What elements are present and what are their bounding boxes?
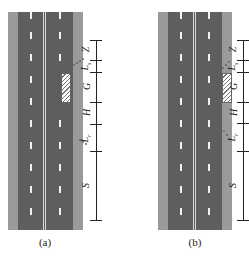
dimension-tick	[90, 60, 102, 61]
lane-dash	[180, 76, 182, 83]
lane-dash	[30, 186, 32, 193]
lane-dash	[180, 98, 182, 105]
label-s: S	[80, 183, 91, 188]
taper-marker	[73, 64, 75, 66]
dimension-tick	[90, 124, 102, 125]
panel-b: Z Ls G H Lr S (b)	[125, 0, 249, 263]
road-b	[158, 12, 232, 230]
lane-dash	[30, 164, 32, 171]
label-ls: Ls	[79, 63, 92, 71]
taper-marker	[222, 67, 224, 69]
dimension-tick	[90, 151, 102, 152]
dimension-tick	[90, 40, 102, 41]
lane-dash	[59, 32, 61, 39]
label-g: G	[228, 83, 239, 90]
label-z: Z	[227, 47, 238, 53]
lane-dash	[30, 120, 32, 127]
dimension-tick	[237, 220, 249, 221]
lane-dash	[30, 98, 32, 105]
lane-dash	[180, 120, 182, 127]
lane-dash	[180, 54, 182, 61]
label-lr: Lr	[79, 135, 92, 143]
label-g: G	[81, 83, 92, 90]
work-zone	[61, 73, 71, 103]
dimension-tick	[237, 40, 249, 41]
dimension-tick	[237, 123, 249, 124]
lane-dash	[59, 164, 61, 171]
taper-marker	[85, 143, 87, 145]
caption-a: (a)	[25, 236, 65, 248]
lane-dash	[180, 142, 182, 149]
lane-dash	[180, 32, 182, 39]
dimension-tick	[90, 220, 102, 221]
lane-dash	[30, 208, 32, 215]
lane-dash	[208, 186, 210, 193]
lane-dash	[208, 208, 210, 215]
dimension-line	[96, 40, 97, 221]
lane-dash	[180, 12, 182, 19]
dimension-tick	[237, 72, 249, 73]
lane-dash	[180, 208, 182, 215]
dimension-tick	[237, 60, 249, 61]
caption-b: (b)	[175, 236, 215, 248]
lane-dash	[30, 142, 32, 149]
lane-dash	[208, 98, 210, 105]
lane-dash	[59, 120, 61, 127]
label-h: H	[81, 109, 92, 116]
lane-dash	[180, 164, 182, 171]
lane-dash	[59, 208, 61, 215]
label-z: Z	[80, 47, 91, 53]
dimension-tick	[90, 72, 102, 73]
lane-dash	[59, 12, 61, 19]
label-h: H	[228, 109, 239, 116]
lane-dash	[208, 142, 210, 149]
lane-dash	[208, 164, 210, 171]
dimension-line	[243, 40, 244, 221]
lane-dash	[208, 76, 210, 83]
lane-dash	[180, 186, 182, 193]
taper-marker	[82, 58, 84, 60]
lane-dash	[59, 186, 61, 193]
road-a	[8, 12, 83, 230]
lane-dash	[208, 54, 210, 61]
lane-dash	[59, 142, 61, 149]
dimension-tick	[237, 151, 249, 152]
dimension-tick	[90, 102, 102, 103]
panel-a: Z Ls G H Lr S (a)	[0, 0, 124, 263]
lane-dash	[208, 32, 210, 39]
lane-dash	[30, 12, 32, 19]
lane-dash	[208, 12, 210, 19]
lane-dash	[30, 76, 32, 83]
taper-marker	[223, 130, 225, 132]
dimension-tick	[237, 102, 249, 103]
lane-dash	[208, 120, 210, 127]
label-ls: Ls	[226, 63, 239, 71]
taper-marker	[76, 62, 78, 64]
lane-dash	[30, 32, 32, 39]
lane-dash	[30, 54, 32, 61]
label-s: S	[227, 183, 238, 188]
label-lr: Lr	[226, 134, 239, 142]
lane-dash	[59, 54, 61, 61]
